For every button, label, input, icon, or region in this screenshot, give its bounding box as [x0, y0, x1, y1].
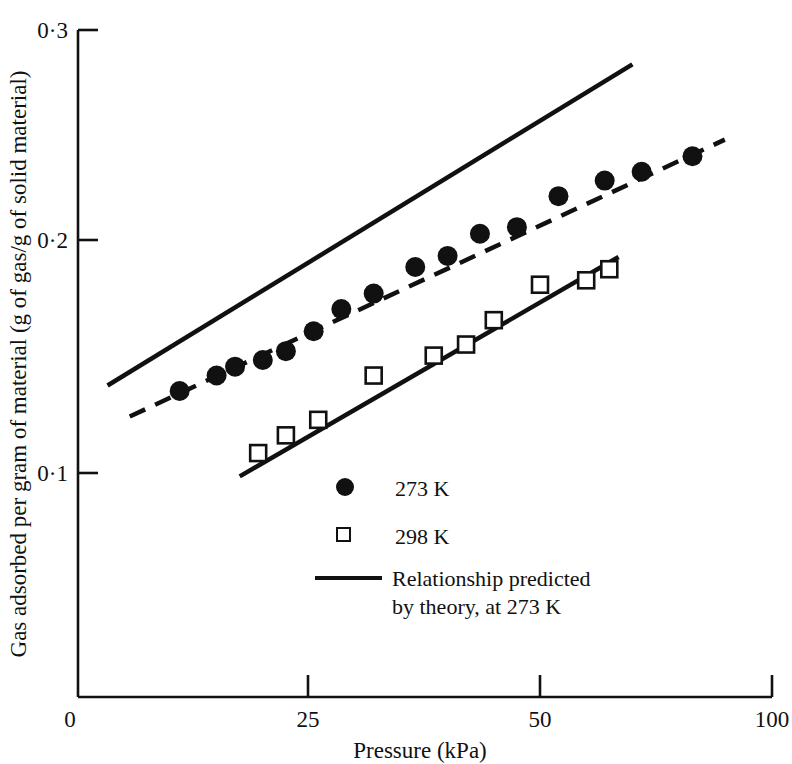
data-point-open-square [310, 412, 326, 428]
data-point-filled-circle [225, 357, 245, 377]
y-tick-label-0.3: 0·3 [37, 18, 68, 43]
x-tick-label-0: 0 [64, 707, 76, 732]
legend-label-theory-line2: by theory, at 273 K [392, 594, 561, 619]
data-point-open-square [278, 427, 294, 443]
data-point-filled-circle [470, 224, 490, 244]
data-point-filled-circle [682, 146, 702, 166]
data-point-filled-circle [595, 171, 615, 191]
y-axis-title: Gas adsorbed per gram of material (g of … [6, 71, 31, 658]
data-point-filled-circle [507, 217, 527, 237]
x-tick-label-100: 100 [755, 707, 790, 732]
x-tick-label-25: 25 [297, 707, 320, 732]
data-point-filled-circle [364, 284, 384, 304]
data-point-filled-circle [253, 350, 273, 370]
data-point-open-square [250, 445, 266, 461]
data-point-open-square [458, 337, 474, 353]
data-point-open-square [578, 272, 594, 288]
x-tick-label-50: 50 [529, 707, 552, 732]
data-point-open-square [426, 348, 442, 364]
y-tick-label-0.1: 0·1 [37, 461, 68, 486]
data-point-filled-circle [207, 366, 227, 386]
legend-label-theory-line1: Relationship predicted [392, 566, 591, 591]
data-point-filled-circle [405, 257, 425, 277]
adsorption-isotherm-chart: 0·3 0·2 0·1 0 25 50 100 Pressure (kPa) G… [0, 0, 792, 764]
data-point-filled-circle [438, 246, 458, 266]
legend-label-273k: 273 K [395, 476, 450, 501]
data-point-open-square [532, 277, 548, 293]
legend-marker-filled-circle [336, 478, 354, 496]
data-point-filled-circle [331, 299, 351, 319]
y-tick-label-0.2: 0·2 [37, 228, 68, 253]
legend-marker-open-square [337, 528, 350, 541]
data-point-open-square [366, 368, 382, 384]
data-point-filled-circle [304, 321, 324, 341]
x-axis-title: Pressure (kPa) [353, 738, 487, 763]
chart-background [0, 0, 792, 764]
data-point-open-square [601, 261, 617, 277]
data-point-filled-circle [632, 162, 652, 182]
data-point-open-square [486, 312, 502, 328]
data-point-filled-circle [548, 186, 568, 206]
data-point-filled-circle [276, 341, 296, 361]
legend-label-298k: 298 K [395, 524, 450, 549]
data-point-filled-circle [170, 381, 190, 401]
